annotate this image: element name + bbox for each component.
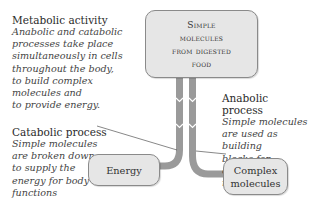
intro-line: processes take place (12, 38, 123, 50)
source-box-line: molecules (172, 31, 231, 44)
anabolic-title: Anabolic process (222, 92, 312, 116)
intro-title: Metabolic activity (12, 14, 123, 26)
source-box-line: from digested (172, 44, 231, 57)
complex-label-line: Complex (231, 164, 281, 177)
catabolic-line: functions (12, 187, 107, 199)
intro-line: to provide energy. (12, 99, 123, 111)
anabolic-line: are used as building (222, 128, 312, 152)
energy-box: Energy (88, 154, 160, 186)
source-box-line: food (172, 57, 231, 70)
source-box-line: Simple (172, 18, 231, 31)
anabolic-line: Simple molecules (222, 116, 312, 128)
catabolic-line: Simple molecules (12, 138, 107, 150)
complex-molecules-box: Complex molecules (223, 158, 288, 195)
catabolic-leader-line (97, 126, 177, 150)
catabolic-title: Catabolic process (12, 126, 107, 138)
intro-line: simultaneously in cells (12, 50, 123, 62)
intro-block: Metabolic activity Anabolic and cataboli… (12, 14, 123, 111)
complex-label-line: molecules (231, 177, 281, 190)
source-box: Simple molecules from digested food (145, 10, 258, 78)
energy-label: Energy (106, 164, 142, 177)
intro-line: to build complex (12, 75, 123, 87)
intro-line: throughout the body, (12, 63, 123, 75)
intro-line: Anabolic and catabolic (12, 26, 123, 38)
intro-line: molecules and (12, 87, 123, 99)
